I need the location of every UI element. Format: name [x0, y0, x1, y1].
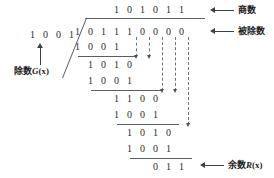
quotient-digit-3: 0 — [149, 5, 162, 15]
partial-2-digit-1: 1 — [123, 94, 136, 104]
remainder-digit-1: 1 — [162, 162, 175, 172]
subtrahend-4-digit-0: 1 — [123, 144, 136, 154]
subtraction-rule-1 — [78, 56, 136, 57]
subtrahend-4-digit-1: 0 — [136, 144, 149, 154]
quotient-digit-0: 1 — [110, 5, 123, 15]
crc-long-division-figure: 1001 除数G(x) 101011 商数 101110000 被除数 1001… — [0, 0, 274, 178]
remainder-label-text: 余数 — [228, 160, 246, 170]
subtrahend-row-1: 1001 — [71, 42, 123, 52]
subtrahend-1-digit-1: 0 — [84, 42, 97, 52]
bring-down-arrow-5 — [186, 123, 190, 127]
remainder-digit-0: 0 — [149, 162, 162, 172]
bring-down-line-5 — [188, 37, 189, 125]
subtrahend-row-4: 1001 — [123, 144, 175, 154]
divisor-digit-1: 0 — [39, 30, 52, 40]
subtrahend-row-3: 1001 — [110, 110, 162, 120]
divisor-label-text: 除数 — [14, 66, 32, 76]
dividend-callout-arrow — [210, 27, 234, 35]
quotient-digit-4: 1 — [162, 5, 175, 15]
subtrahend-2-digit-2: 0 — [110, 76, 123, 86]
bring-down-arrow-2 — [147, 55, 151, 59]
dividend-digit-4: 1 — [123, 27, 136, 37]
dividend-digit-3: 1 — [110, 27, 123, 37]
divisor-label-arg: (x) — [39, 66, 50, 76]
partial-3-digit-0: 1 — [123, 128, 136, 138]
partial-2-digit-2: 0 — [136, 94, 149, 104]
partial-3-digit-2: 1 — [149, 128, 162, 138]
partial-2-digit-0: 1 — [110, 94, 123, 104]
division-bracket-vinculum — [85, 18, 205, 19]
partial-2-digit-3: 0 — [149, 94, 162, 104]
partial-remainder-row-3: 1010 — [123, 128, 175, 138]
subtraction-rule-4 — [130, 158, 192, 159]
subtrahend-4-digit-2: 0 — [149, 144, 162, 154]
dividend-digit-2: 1 — [97, 27, 110, 37]
partial-3-digit-3: 0 — [162, 128, 175, 138]
quotient-digit-2: 1 — [136, 5, 149, 15]
divisor-digit-0: 1 — [26, 30, 39, 40]
subtrahend-3-digit-1: 0 — [123, 110, 136, 120]
remainder-digit-2: 1 — [175, 162, 188, 172]
quotient-digit-5: 1 — [175, 5, 188, 15]
dividend-label: 被除数 — [238, 26, 265, 36]
subtrahend-2-digit-3: 1 — [123, 76, 136, 86]
quotient-digits: 101011 — [110, 5, 188, 15]
partial-1-digit-2: 1 — [110, 60, 123, 70]
quotient-callout-arrow — [210, 6, 234, 14]
bring-down-line-4 — [175, 37, 176, 91]
remainder-label-arg: (x) — [252, 160, 263, 170]
remainder-digits: 011 — [149, 162, 188, 172]
dividend-digit-7: 0 — [162, 27, 175, 37]
bring-down-arrow-4 — [173, 89, 177, 93]
partial-1-digit-1: 0 — [97, 60, 110, 70]
partial-remainder-row-2: 1100 — [110, 94, 162, 104]
subtrahend-3-digit-3: 1 — [149, 110, 162, 120]
bring-down-line-3 — [162, 37, 163, 91]
subtrahend-row-2: 1001 — [84, 76, 136, 86]
dividend-digit-8: 0 — [175, 27, 188, 37]
partial-3-digit-1: 0 — [136, 128, 149, 138]
dividend-digit-6: 0 — [149, 27, 162, 37]
dividend-label-text: 被除数 — [238, 26, 265, 36]
bring-down-arrow-1 — [134, 55, 138, 59]
subtrahend-2-digit-0: 1 — [84, 76, 97, 86]
remainder-label: 余数R(x) — [228, 160, 263, 170]
dividend-digits: 101110000 — [71, 27, 188, 37]
dividend-digit-0: 1 — [71, 27, 84, 37]
bring-down-arrow-3 — [160, 89, 164, 93]
bring-down-line-1 — [136, 37, 137, 57]
subtraction-rule-2 — [91, 90, 162, 91]
partial-remainder-row-1: 1010 — [84, 60, 136, 70]
divisor-digit-2: 0 — [52, 30, 65, 40]
subtrahend-4-digit-3: 1 — [162, 144, 175, 154]
remainder-callout-arrow — [200, 161, 224, 169]
bring-down-line-2 — [149, 37, 150, 57]
quotient-label: 商数 — [238, 5, 256, 15]
subtrahend-1-digit-0: 1 — [71, 42, 84, 52]
quotient-label-text: 商数 — [238, 5, 256, 15]
subtrahend-3-digit-0: 1 — [110, 110, 123, 120]
quotient-digit-1: 0 — [123, 5, 136, 15]
subtrahend-2-digit-1: 0 — [97, 76, 110, 86]
subtrahend-3-digit-2: 0 — [136, 110, 149, 120]
partial-1-digit-3: 0 — [123, 60, 136, 70]
dividend-digit-5: 0 — [136, 27, 149, 37]
partial-1-digit-0: 1 — [84, 60, 97, 70]
divisor-label: 除数G(x) — [14, 66, 49, 76]
divisor-pointer-arrow — [37, 43, 44, 65]
subtrahend-1-digit-3: 1 — [110, 42, 123, 52]
subtraction-rule-3 — [117, 124, 179, 125]
dividend-digit-1: 0 — [84, 27, 97, 37]
subtrahend-1-digit-2: 0 — [97, 42, 110, 52]
